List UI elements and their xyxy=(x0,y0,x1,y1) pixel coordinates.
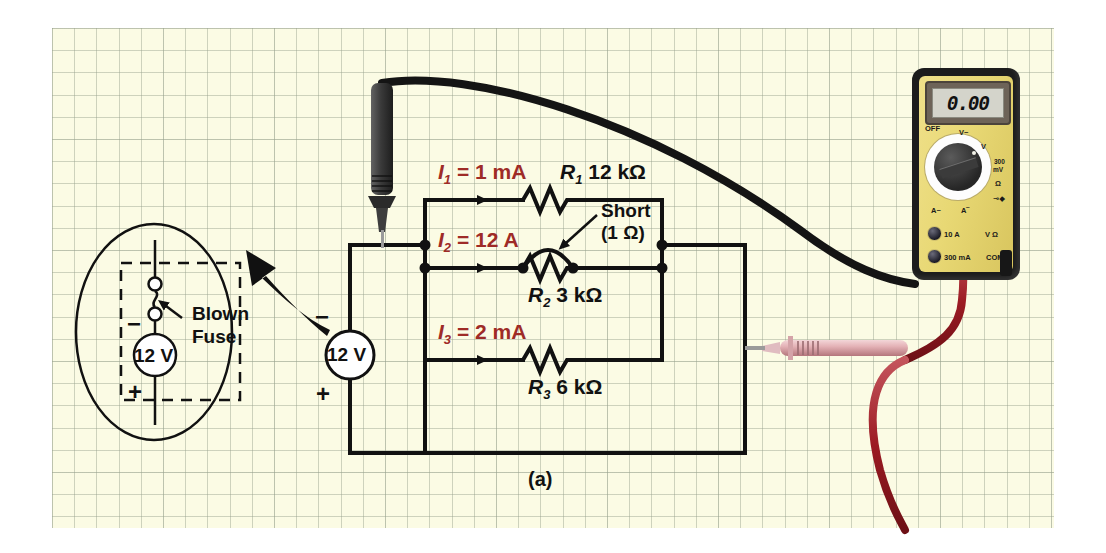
short-leader xyxy=(566,215,597,243)
terminal-label-300ma: 300 mA xyxy=(944,253,971,262)
resistor-r3 xyxy=(523,348,573,372)
meter-reading: 0.00 xyxy=(947,92,989,114)
resistor-symbols xyxy=(523,188,573,372)
dial-label-millivolts[interactable]: mV xyxy=(993,166,1003,173)
dial-label-off[interactable]: OFF xyxy=(925,124,940,133)
resistor-label-r2: R2 3 kΩ xyxy=(528,283,602,310)
terminal-jack-300ma[interactable] xyxy=(927,249,942,264)
fuse-terminal-top xyxy=(149,278,162,291)
inset-minus-sign: − xyxy=(127,312,141,336)
resistor-r1 xyxy=(523,188,573,212)
dial-label-dc-amps[interactable]: A‾ xyxy=(961,206,969,215)
source-value-label: 12 V xyxy=(327,344,366,366)
dial-label-ac-volts[interactable]: V~ xyxy=(959,128,968,137)
short-callout-title: Short xyxy=(601,200,651,222)
dial-label-ac-amps[interactable]: A~ xyxy=(931,206,941,215)
source-minus-sign: − xyxy=(315,305,329,329)
inset-source-value-label: 12 V xyxy=(134,345,173,367)
dial-label-diode[interactable]: ⊸◆ xyxy=(993,194,1005,203)
current-label-i1: I1 = 1 mA xyxy=(438,160,526,187)
black-probe xyxy=(368,83,396,248)
red-lead-cable-tail xyxy=(873,360,905,530)
dial-label-ohms[interactable]: Ω xyxy=(995,179,1001,188)
com-lead-plug xyxy=(1000,250,1012,276)
resistor-label-r1: R1 12 kΩ xyxy=(560,160,646,187)
lcd-bezel: 0.00 xyxy=(925,81,1011,125)
figure-caption: (a) xyxy=(528,468,552,491)
digital-multimeter[interactable]: 0.00 OFF V~ V 300 mV Ω ⊸◆ A~ A‾ 10 A 300… xyxy=(912,68,1020,280)
lcd-screen: 0.00 xyxy=(932,88,1004,118)
current-label-i2: I2 = 12 A xyxy=(438,228,519,255)
blown-fuse-label-line1: Blown xyxy=(192,303,249,325)
terminal-jack-10a[interactable] xyxy=(927,226,942,241)
range-dial-knob[interactable] xyxy=(934,143,982,191)
source-plus-sign: + xyxy=(316,382,330,406)
fuse-broken-element xyxy=(153,291,157,307)
figure-canvas: I1 = 1 mA R1 12 kΩ I2 = 12 A R2 3 kΩ I3 … xyxy=(0,0,1106,553)
red-probe xyxy=(745,336,908,360)
resistor-label-r3: R3 6 kΩ xyxy=(528,375,602,402)
terminal-label-10a: 10 A xyxy=(944,230,960,239)
dial-label-dc-volts[interactable]: V xyxy=(981,142,986,151)
terminal-label-volts-ohms: V Ω xyxy=(985,230,998,239)
dial-pointer-bar xyxy=(939,157,978,178)
inset-plus-sign: + xyxy=(128,380,142,404)
dial-index-dot xyxy=(972,151,976,155)
short-callout-value: (1 Ω) xyxy=(601,222,645,244)
dial-label-300[interactable]: 300 xyxy=(994,158,1005,165)
circuit-wires xyxy=(350,200,745,453)
blown-fuse-label-line2: Fuse xyxy=(192,326,236,348)
fuse-terminal-bottom xyxy=(149,308,162,321)
meter-faceplate: 0.00 OFF V~ V 300 mV Ω ⊸◆ A~ A‾ 10 A 300… xyxy=(919,76,1013,272)
current-label-i3: I3 = 2 mA xyxy=(438,320,526,347)
